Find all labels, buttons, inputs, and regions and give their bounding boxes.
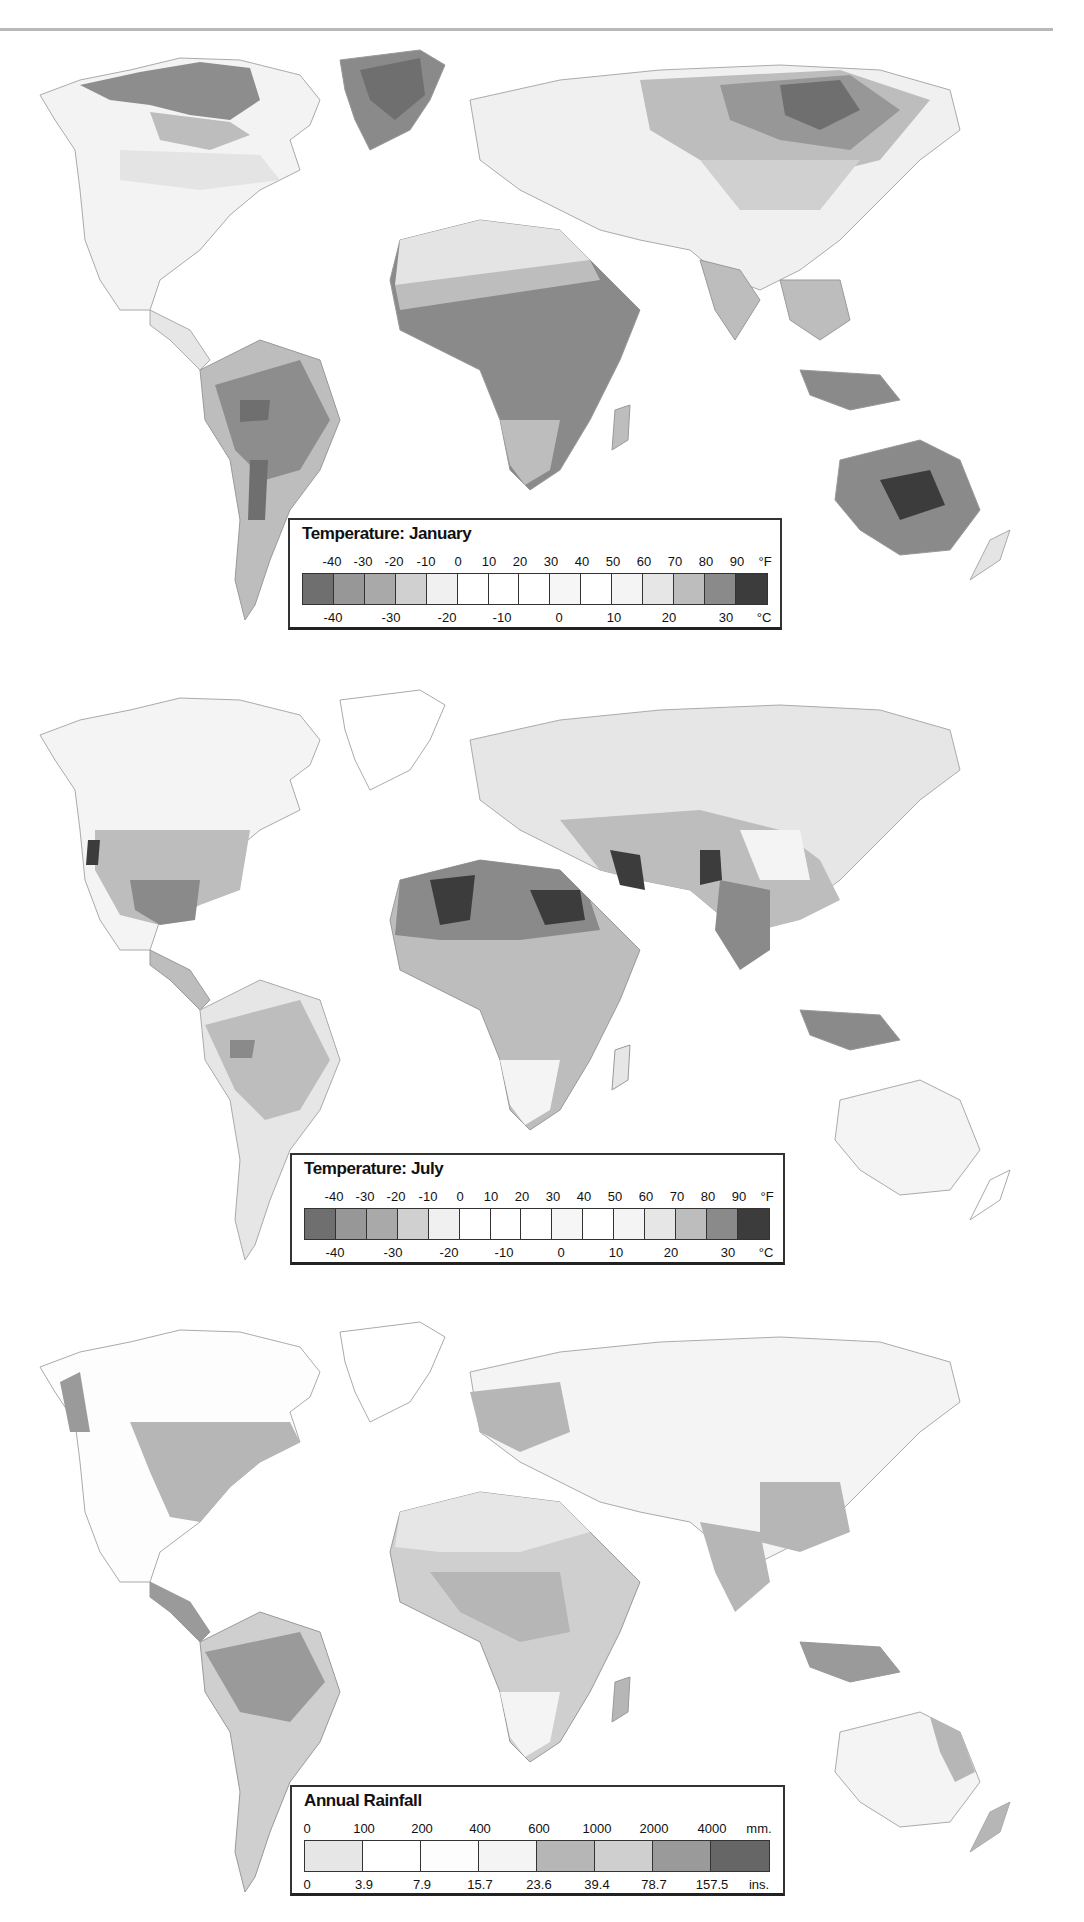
legend-swatch bbox=[738, 1209, 769, 1239]
tick-label: 60 bbox=[637, 554, 651, 569]
legend-swatch bbox=[595, 1841, 653, 1871]
tick-label: 0 bbox=[555, 610, 562, 625]
legend-title: Annual Rainfall bbox=[304, 1791, 422, 1811]
tick-label: 60 bbox=[639, 1189, 653, 1204]
legend-swatch bbox=[705, 574, 736, 604]
tick-label: -20 bbox=[440, 1245, 459, 1260]
legend-january: Temperature: January -40 -30 -20 -10 0 1… bbox=[288, 518, 782, 630]
legend-title: Temperature: July bbox=[304, 1159, 443, 1179]
legend-swatch bbox=[614, 1209, 645, 1239]
tick-label: -10 bbox=[417, 554, 436, 569]
legend-fahrenheit-ticks: -40 -30 -20 -10 0 10 20 30 40 50 60 70 8… bbox=[302, 554, 768, 570]
tick-label: 50 bbox=[608, 1189, 622, 1204]
legend-swatch bbox=[303, 574, 334, 604]
tick-label: 78.7 bbox=[641, 1877, 666, 1892]
tick-label: 23.6 bbox=[526, 1877, 551, 1892]
tick-label: 0 bbox=[557, 1245, 564, 1260]
unit-mm: mm. bbox=[746, 1821, 771, 1836]
tick-label: 30 bbox=[546, 1189, 560, 1204]
tick-label: 0 bbox=[454, 554, 461, 569]
legend-swatch bbox=[334, 574, 365, 604]
legend-swatch bbox=[479, 1841, 537, 1871]
tick-label: 4000 bbox=[698, 1821, 727, 1836]
tick-label: -20 bbox=[387, 1189, 406, 1204]
unit-celsius: °C bbox=[757, 610, 772, 625]
tick-label: 40 bbox=[575, 554, 589, 569]
legend-swatch bbox=[491, 1209, 522, 1239]
tick-label: 7.9 bbox=[413, 1877, 431, 1892]
legend-swatch bbox=[305, 1841, 363, 1871]
tick-label: 10 bbox=[482, 554, 496, 569]
legend-rainfall: Annual Rainfall 0 100 200 400 600 1000 2… bbox=[290, 1785, 785, 1896]
tick-label: 10 bbox=[609, 1245, 623, 1260]
legend-swatch bbox=[489, 574, 520, 604]
map-panel-rainfall: Annual Rainfall 0 100 200 400 600 1000 2… bbox=[0, 1312, 1084, 1912]
tick-label: 20 bbox=[662, 610, 676, 625]
tick-label: -30 bbox=[354, 554, 373, 569]
legend-swatch bbox=[367, 1209, 398, 1239]
legend-swatch bbox=[396, 574, 427, 604]
legend-swatches bbox=[302, 573, 768, 605]
tick-label: 0 bbox=[456, 1189, 463, 1204]
tick-label: 30 bbox=[721, 1245, 735, 1260]
tick-label: 10 bbox=[484, 1189, 498, 1204]
tick-label: 39.4 bbox=[584, 1877, 609, 1892]
legend-swatch bbox=[365, 574, 396, 604]
tick-label: -10 bbox=[495, 1245, 514, 1260]
legend-swatch bbox=[460, 1209, 491, 1239]
tick-label: 3.9 bbox=[355, 1877, 373, 1892]
legend-swatch bbox=[552, 1209, 583, 1239]
legend-swatch bbox=[676, 1209, 707, 1239]
legend-swatch bbox=[421, 1841, 479, 1871]
legend-fahrenheit-ticks: -40 -30 -20 -10 0 10 20 30 40 50 60 70 8… bbox=[304, 1189, 770, 1205]
legend-swatch bbox=[305, 1209, 336, 1239]
tick-label: 30 bbox=[719, 610, 733, 625]
tick-label: 80 bbox=[701, 1189, 715, 1204]
tick-label: 50 bbox=[606, 554, 620, 569]
tick-label: -20 bbox=[438, 610, 457, 625]
legend-swatch bbox=[537, 1841, 595, 1871]
tick-label: -30 bbox=[356, 1189, 375, 1204]
legend-mm-ticks: 0 100 200 400 600 1000 2000 4000 mm. bbox=[304, 1821, 770, 1837]
legend-swatches bbox=[304, 1208, 770, 1240]
legend-swatch bbox=[427, 574, 458, 604]
legend-inch-ticks: 0 3.9 7.9 15.7 23.6 39.4 78.7 157.5 ins. bbox=[304, 1877, 770, 1893]
tick-label: 70 bbox=[668, 554, 682, 569]
legend-swatch bbox=[643, 574, 674, 604]
map-panel-july: Temperature: July -40 -30 -20 -10 0 10 2… bbox=[0, 680, 1084, 1280]
tick-label: -10 bbox=[419, 1189, 438, 1204]
legend-swatch bbox=[550, 574, 581, 604]
legend-swatch bbox=[429, 1209, 460, 1239]
legend-swatch bbox=[612, 574, 643, 604]
tick-label: 90 bbox=[730, 554, 744, 569]
legend-swatch bbox=[363, 1841, 421, 1871]
legend-swatch bbox=[521, 1209, 552, 1239]
tick-label: 15.7 bbox=[467, 1877, 492, 1892]
tick-label: 400 bbox=[469, 1821, 491, 1836]
tick-label: -10 bbox=[493, 610, 512, 625]
legend-swatch bbox=[458, 574, 489, 604]
tick-label: 0 bbox=[303, 1821, 310, 1836]
unit-fahrenheit: °F bbox=[758, 554, 771, 569]
legend-swatches bbox=[304, 1840, 770, 1872]
unit-fahrenheit: °F bbox=[760, 1189, 773, 1204]
legend-swatch bbox=[711, 1841, 769, 1871]
tick-label: 100 bbox=[353, 1821, 375, 1836]
map-panel-january: Temperature: January -40 -30 -20 -10 0 1… bbox=[0, 40, 1084, 640]
legend-swatch bbox=[519, 574, 550, 604]
legend-swatch bbox=[707, 1209, 738, 1239]
tick-label: 20 bbox=[664, 1245, 678, 1260]
legend-swatch bbox=[653, 1841, 711, 1871]
tick-label: 200 bbox=[411, 1821, 433, 1836]
legend-swatch bbox=[336, 1209, 367, 1239]
tick-label: 2000 bbox=[640, 1821, 669, 1836]
tick-label: -30 bbox=[384, 1245, 403, 1260]
tick-label: 600 bbox=[528, 1821, 550, 1836]
legend-july: Temperature: July -40 -30 -20 -10 0 10 2… bbox=[290, 1153, 785, 1265]
tick-label: -40 bbox=[325, 1189, 344, 1204]
tick-label: -30 bbox=[382, 610, 401, 625]
legend-swatch bbox=[581, 574, 612, 604]
legend-celsius-ticks: -40 -30 -20 -10 0 10 20 30 °C bbox=[304, 1245, 770, 1261]
tick-label: 90 bbox=[732, 1189, 746, 1204]
legend-celsius-ticks: -40 -30 -20 -10 0 10 20 30 °C bbox=[302, 610, 768, 626]
